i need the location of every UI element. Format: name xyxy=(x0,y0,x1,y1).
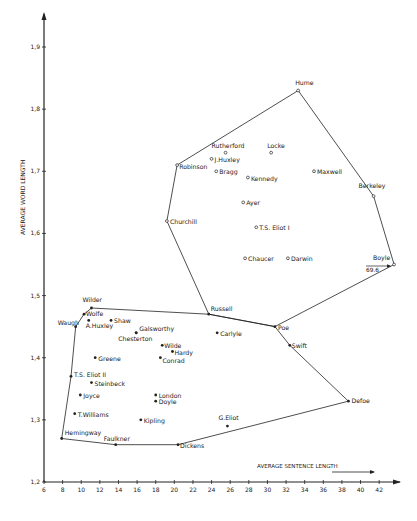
point-label: Wilder xyxy=(82,296,102,303)
point-label: Faulkner xyxy=(104,435,131,442)
point-label: Conrad xyxy=(162,357,184,364)
x-tick-label: 22 xyxy=(189,486,197,493)
y-tick-label: 1,2 xyxy=(30,478,40,485)
point-marker xyxy=(87,319,90,322)
point-label: Robinson xyxy=(179,163,207,170)
point-label: Boyle xyxy=(373,254,390,262)
point-label: Swift xyxy=(292,342,308,349)
point-label: Russell xyxy=(211,305,233,312)
x-tick-label: 38 xyxy=(338,486,346,493)
point-label: Chesterton xyxy=(118,335,152,342)
point-label: Ayer xyxy=(246,199,260,207)
point-label: T.Williams xyxy=(77,411,109,418)
point-label: Hardy xyxy=(174,349,193,357)
point-marker xyxy=(79,394,82,397)
point-label: G.Eliot xyxy=(218,414,239,421)
y-axis-label: AVERAGE WORD LENGTH xyxy=(19,160,26,235)
point-marker xyxy=(224,151,227,154)
point-label: Poe xyxy=(278,324,289,331)
point-marker xyxy=(242,201,245,204)
point-label: J.Huxley xyxy=(214,156,241,164)
point-marker xyxy=(70,375,73,378)
point-marker xyxy=(73,412,76,415)
point-label: A.Huxley xyxy=(86,322,114,330)
point-label: Galsworthy xyxy=(139,325,174,333)
y-tick-label: 1,5 xyxy=(30,292,40,299)
x-tick-label: 28 xyxy=(245,486,253,493)
point-marker xyxy=(165,220,168,223)
point-marker xyxy=(135,331,138,334)
y-tick-label: 1,3 xyxy=(30,416,40,423)
y-axis-arrow-icon xyxy=(42,12,47,20)
point-marker xyxy=(244,257,247,260)
point-label: Churchill xyxy=(170,218,197,225)
x-axis-arrow-icon xyxy=(393,480,401,485)
x-tick-label: 8 xyxy=(61,486,65,493)
point-label: Berkeley xyxy=(359,182,386,190)
x-tick-label: 14 xyxy=(115,486,123,493)
x-tick-label: 20 xyxy=(171,486,179,493)
point-marker xyxy=(139,418,142,421)
point-label: Greene xyxy=(98,355,121,362)
x-label-arrow-icon xyxy=(370,470,375,474)
point-marker xyxy=(159,356,162,359)
point-label: Locke xyxy=(267,142,285,149)
x-axis-label: AVERAGE SENTENCE LENGTH xyxy=(257,463,338,469)
y-tick-label: 1,9 xyxy=(30,43,40,50)
point-label: Shaw xyxy=(114,317,131,324)
point-marker xyxy=(177,443,180,446)
x-tick-label: 16 xyxy=(133,486,141,493)
point-marker xyxy=(60,437,63,440)
axes: 6810121416182022242628303234363840421,21… xyxy=(30,12,401,493)
y-tick-label: 1,7 xyxy=(30,167,40,174)
point-label: Waugh xyxy=(58,319,79,327)
hull-upper xyxy=(167,91,394,327)
point-marker xyxy=(313,170,316,173)
point-marker xyxy=(154,394,157,397)
point-marker xyxy=(393,263,396,266)
point-marker xyxy=(90,307,93,310)
point-marker xyxy=(90,381,93,384)
point-marker xyxy=(83,313,86,316)
point-marker xyxy=(288,344,291,347)
point-marker xyxy=(297,89,300,92)
point-label: Darwin xyxy=(291,255,313,262)
x-tick-label: 40 xyxy=(357,486,365,493)
point-label: Defoe xyxy=(351,397,370,404)
x-tick-label: 10 xyxy=(77,486,85,493)
point-marker xyxy=(287,257,290,260)
scatter-chart: 6810121416182022242628303234363840421,21… xyxy=(0,0,417,521)
point-marker xyxy=(210,157,213,160)
point-marker xyxy=(176,164,179,167)
y-tick-label: 1,8 xyxy=(30,105,40,112)
x-tick-label: 12 xyxy=(96,486,104,493)
point-marker xyxy=(226,425,229,428)
point-label: Hemingway xyxy=(65,429,102,437)
point-marker xyxy=(216,331,219,334)
point-marker xyxy=(372,195,375,198)
point-label: Steinbeck xyxy=(94,380,125,387)
point-label: Maxwell xyxy=(317,168,342,175)
point-marker xyxy=(270,151,273,154)
point-marker xyxy=(161,344,164,347)
x-tick-label: 32 xyxy=(282,486,290,493)
point-label: Hume xyxy=(295,79,314,86)
point-label: Kennedy xyxy=(251,175,278,183)
point-marker xyxy=(114,443,117,446)
point-label: Chaucer xyxy=(248,255,274,262)
x-tick-label: 30 xyxy=(264,486,272,493)
point-marker xyxy=(94,356,97,359)
point-label: Carlyle xyxy=(220,330,242,338)
x-tick-label: 26 xyxy=(226,486,234,493)
x-tick-label: 24 xyxy=(208,486,216,493)
point-marker xyxy=(110,319,113,322)
point-label: Bragg xyxy=(219,168,238,176)
x-tick-label: 36 xyxy=(319,486,327,493)
point-marker xyxy=(273,325,276,328)
point-label: Rutherford xyxy=(212,142,245,149)
point-marker xyxy=(347,400,350,403)
y-tick-label: 1,4 xyxy=(30,354,40,361)
x-tick-label: 18 xyxy=(152,486,160,493)
y-tick-label: 1,6 xyxy=(30,229,40,236)
point-label: T.S. Eliot II xyxy=(73,371,106,378)
